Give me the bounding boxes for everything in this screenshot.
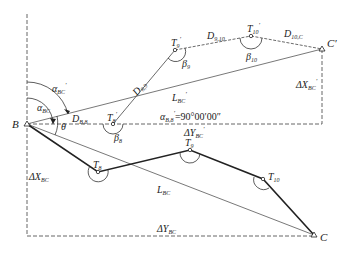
label-d-10c: D10,C (283, 28, 304, 40)
label-t8: T8 (93, 159, 102, 171)
label-alpha-b8-prime: αB,8′=90°00′00″ (160, 109, 221, 123)
label-t8-prime: T8′ (107, 110, 118, 124)
label-d-89: D8,9 (129, 79, 148, 99)
label-l-bc: LBC (156, 184, 171, 196)
label-dy-bc: ΔYBC (156, 223, 177, 235)
label-t9-prime: T9′ (171, 35, 182, 49)
label-l-bc-prime: LBC′ (171, 90, 187, 104)
label-c: C (320, 231, 328, 243)
alpha-arrow (50, 118, 56, 124)
label-beta9: β9 (181, 58, 190, 70)
label-t9: T9 (185, 137, 194, 149)
label-t10: T10 (268, 171, 280, 183)
label-dx-bc: ΔXBC (28, 171, 50, 183)
t10-point-icon (261, 177, 264, 180)
theta-arc (55, 116, 58, 135)
label-d-910: D9,10 (206, 30, 225, 42)
beta10-arc (240, 38, 262, 49)
label-dy-bc-prime: ΔYBC′ (183, 125, 205, 139)
label-alpha-bc-prime: αBC′ (52, 81, 67, 95)
label-t10-prime: T10′ (247, 21, 261, 35)
traverse-diagram: B C C′ T8 T9 T10 T8′ T9′ T10′ DB,8 D8,9 … (0, 0, 348, 253)
label-beta8: β8 (113, 132, 122, 144)
label-d-b8: DB,8 (71, 113, 87, 125)
label-beta10: β10 (245, 51, 257, 63)
label-b: B (12, 118, 19, 130)
label-dx-bc-prime: ΔXBC′ (295, 77, 318, 91)
label-c-prime: C′ (327, 37, 337, 49)
label-theta: θ (61, 121, 66, 132)
t9-arc (180, 152, 200, 163)
